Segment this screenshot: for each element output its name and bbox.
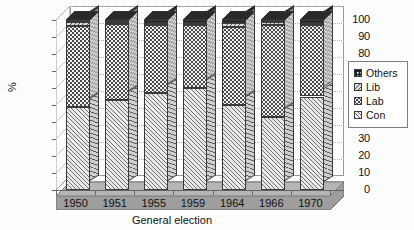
bar-segment-lib[interactable] (66, 22, 90, 26)
bar-segment-con[interactable] (300, 97, 324, 191)
bar-column[interactable] (261, 20, 285, 190)
bar-segment-lab[interactable] (222, 27, 246, 105)
bar-segment-lab[interactable] (261, 25, 285, 117)
bar-column[interactable] (66, 20, 90, 190)
bar-segment-con[interactable] (261, 117, 285, 190)
bar-segment-con[interactable] (66, 107, 90, 190)
bar-segment-lib[interactable] (183, 23, 207, 25)
x-tick-label: 1970 (288, 197, 332, 209)
bar-segment-con[interactable] (105, 100, 129, 190)
legend-swatch-lib-icon (354, 83, 362, 91)
bar-segment-lib[interactable] (300, 23, 324, 25)
y-tick-label: 10 (340, 167, 370, 178)
bar-column[interactable] (105, 20, 129, 190)
plot-area (56, 20, 330, 190)
bar-segment-lab[interactable] (300, 25, 324, 96)
y-tick-label: 20 (340, 150, 370, 161)
legend-item-lab[interactable]: Lab (354, 94, 403, 108)
y-tick-label: 30 (340, 133, 370, 144)
bar-segment-side-con (90, 92, 99, 181)
bar-segment-side-lab (90, 11, 99, 98)
legend-entries: OthersLibLabCon (354, 66, 403, 122)
bar-segment-lab[interactable] (183, 25, 207, 88)
legend-item-lib[interactable]: Lib (354, 80, 403, 94)
bar-top-cap (144, 11, 178, 22)
bar-segment-side-con (246, 90, 255, 181)
y-tick-label: 80 (340, 48, 370, 59)
legend-item-others[interactable]: Others (354, 66, 403, 80)
x-tick-mark (213, 190, 214, 195)
bar-segment-side-con (285, 102, 294, 181)
bar-segment-lab[interactable] (105, 24, 129, 100)
bar-top-cap (183, 11, 217, 22)
x-tick-label: 1959 (171, 197, 215, 209)
bar-top-cap (261, 11, 295, 22)
x-tick-label: 1950 (54, 197, 98, 209)
x-tick-mark (291, 190, 292, 195)
legend-item-con[interactable]: Con (354, 108, 403, 122)
bar-segment-side-con (207, 73, 216, 181)
legend-label: Con (366, 110, 385, 121)
x-tick-mark (252, 190, 253, 195)
x-tick-label: 1951 (93, 197, 137, 209)
x-axis-label: General election (0, 214, 414, 226)
bar-segment-con[interactable] (222, 105, 246, 190)
bar-top-cap (66, 11, 100, 22)
chart-figure: % 0102030405060708090100 195019511955195… (0, 0, 414, 230)
x-tick-mark (330, 190, 331, 195)
x-tick-mark (134, 190, 135, 195)
bar-segment-lib[interactable] (222, 23, 246, 26)
y-tick-label: 100 (340, 14, 370, 25)
bar-column[interactable] (222, 20, 246, 190)
x-tick-mark (95, 190, 96, 195)
legend-label: Lib (366, 82, 380, 93)
chart-legend: OthersLibLabCon (348, 61, 408, 128)
y-axis: % (0, 0, 56, 230)
bar-top-cap (222, 11, 256, 22)
bar-column[interactable] (144, 20, 168, 190)
y-tick-label: 0 (340, 184, 370, 195)
bar-segment-lib[interactable] (261, 22, 285, 25)
x-tick-label: 1964 (210, 197, 254, 209)
bar-segment-con[interactable] (144, 93, 168, 190)
x-tick-label: 1966 (249, 197, 293, 209)
bar-column[interactable] (300, 20, 324, 190)
legend-swatch-others-icon (354, 69, 362, 77)
y-tick-label: 90 (340, 31, 370, 42)
x-axis-line (56, 190, 344, 191)
bar-segment-lab[interactable] (144, 25, 168, 93)
legend-swatch-lab-icon (354, 97, 362, 105)
bar-segment-lib[interactable] (144, 23, 168, 26)
x-tick-mark (56, 190, 57, 195)
bar-segment-side-lab (285, 10, 294, 108)
legend-label: Others (366, 68, 398, 79)
bar-segment-con[interactable] (183, 88, 207, 190)
bar-segment-side-lab (246, 12, 255, 96)
y-axis-label: % (6, 82, 18, 92)
bar-segment-side-con (168, 78, 177, 181)
legend-label: Lab (366, 96, 384, 107)
bar-segment-side-con (129, 85, 138, 181)
x-tick-mark (173, 190, 174, 195)
bar-segment-lib[interactable] (105, 22, 129, 25)
x-tick-label: 1955 (132, 197, 176, 209)
bar-segment-side-con (324, 82, 333, 181)
legend-swatch-con-icon (354, 111, 362, 119)
bar-segment-lab[interactable] (66, 26, 90, 107)
bar-top-cap (105, 11, 139, 22)
bar-top-cap (300, 11, 334, 22)
bar-column[interactable] (183, 20, 207, 190)
